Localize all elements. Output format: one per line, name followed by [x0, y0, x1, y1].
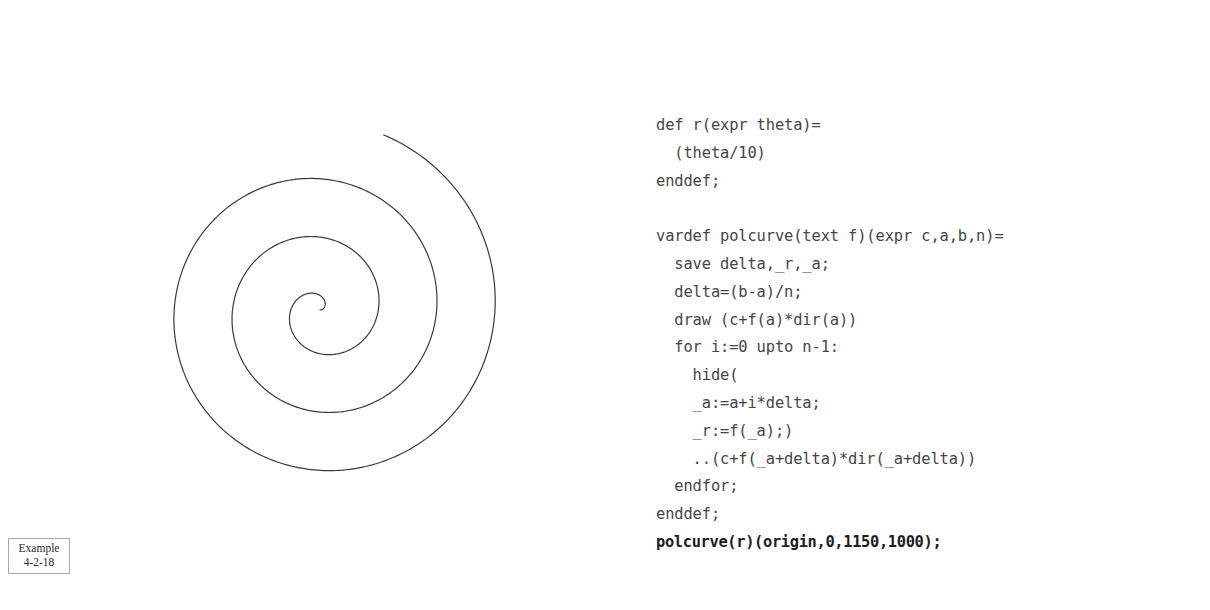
- code-line: vardef polcurve(text f)(expr c,a,b,n)=: [656, 223, 1196, 251]
- code-line: save delta,_r,_a;: [656, 251, 1196, 279]
- spiral-figure: [0, 0, 640, 610]
- code-line: ..(c+f(_a+delta)*dir(_a+delta)): [656, 446, 1196, 474]
- code-line: hide(: [656, 362, 1196, 390]
- code-line-blank: [656, 195, 1196, 223]
- code-line: enddef;: [656, 168, 1196, 196]
- example-tag: Example 4-2-18: [8, 538, 70, 574]
- code-line: (theta/10): [656, 140, 1196, 168]
- figure-panel: [0, 0, 640, 610]
- code-line: def r(expr theta)=: [656, 112, 1196, 140]
- page-root: Example 4-2-18 def r(expr theta)= (theta…: [0, 0, 1210, 610]
- example-tag-label: Example: [11, 542, 67, 556]
- code-line: enddef;: [656, 501, 1196, 529]
- code-line: endfor;: [656, 473, 1196, 501]
- code-line: _r:=f(_a);): [656, 418, 1196, 446]
- example-tag-number: 4-2-18: [11, 556, 67, 570]
- code-line: for i:=0 upto n-1:: [656, 334, 1196, 362]
- code-line: polcurve(r)(origin,0,1150,1000);: [656, 529, 1196, 557]
- code-line: delta=(b-a)/n;: [656, 279, 1196, 307]
- spiral-curve: [174, 135, 495, 471]
- code-listing: def r(expr theta)= (theta/10)enddef; var…: [656, 112, 1196, 557]
- code-line: _a:=a+i*delta;: [656, 390, 1196, 418]
- code-line: draw (c+f(a)*dir(a)): [656, 307, 1196, 335]
